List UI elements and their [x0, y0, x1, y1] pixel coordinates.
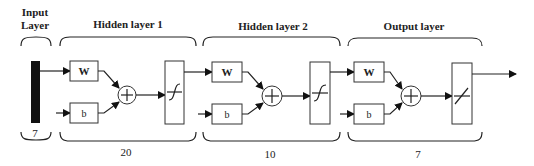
- arrow-b-to-sum: [98, 102, 119, 113]
- layer-top-brace: [60, 37, 196, 46]
- bias-label: b: [367, 109, 372, 120]
- network-diagram: Input Layer 7 Hidden layer 1 20 W b: [0, 0, 534, 166]
- layer-bottom-brace: [348, 132, 482, 141]
- weight-label: W: [364, 66, 375, 78]
- arrow-w-to-sum: [384, 72, 402, 89]
- arrow-w-to-sum: [242, 72, 263, 89]
- layer-size: 20: [121, 146, 133, 158]
- layer-top-brace: [203, 37, 340, 46]
- layer-title: Hidden layer 2: [238, 20, 308, 32]
- hidden-layer-2: Hidden layer 2 10 W b: [184, 20, 340, 160]
- layer-size: 10: [265, 148, 277, 160]
- layer-bottom-brace: [60, 132, 196, 141]
- layer-title: Hidden layer 1: [93, 18, 162, 30]
- hidden-layer-1: Hidden layer 1 20 W b: [40, 18, 196, 158]
- transfer-function-box: [452, 63, 472, 124]
- output-layer: Output layer 7 W b: [330, 20, 516, 160]
- layer-top-brace: [348, 38, 482, 46]
- layer-size: 7: [415, 148, 421, 160]
- input-size: 7: [32, 127, 38, 139]
- input-top-brace: [21, 37, 51, 46]
- summation-node: [262, 86, 282, 106]
- input-layer-title-line1: Input: [22, 6, 49, 18]
- input-layer-title-line2: Layer: [21, 19, 49, 31]
- arrow-b-to-sum: [384, 103, 402, 114]
- bias-label: b: [82, 108, 87, 119]
- input-layer: Input Layer 7: [21, 6, 51, 140]
- arrow-b-to-sum: [242, 103, 263, 114]
- weight-label: W: [222, 66, 233, 78]
- weight-label: W: [79, 65, 90, 77]
- summation-node: [401, 86, 421, 106]
- layer-title: Output layer: [384, 20, 445, 32]
- bias-label: b: [225, 109, 230, 120]
- arrow-w-to-sum: [98, 71, 119, 88]
- input-bar: [31, 61, 40, 123]
- summation-node: [118, 86, 136, 104]
- layer-bottom-brace: [203, 132, 340, 141]
